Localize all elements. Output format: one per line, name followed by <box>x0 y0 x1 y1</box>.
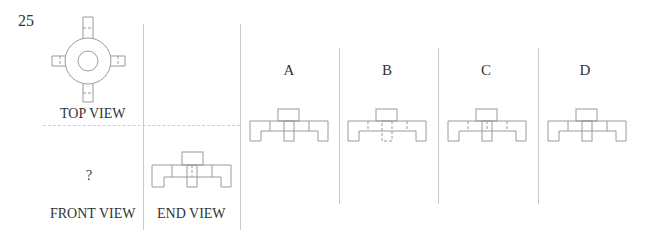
view-divider-1 <box>143 24 144 230</box>
front-view-label: FRONT VIEW <box>50 206 135 222</box>
option-d-drawing[interactable] <box>546 107 630 143</box>
option-divider-bc <box>438 48 439 204</box>
front-view-question-mark: ? <box>86 168 92 184</box>
view-separator-horizontal <box>43 125 240 126</box>
option-a-label[interactable]: A <box>269 62 309 79</box>
option-a-drawing[interactable] <box>248 107 332 143</box>
option-b-label[interactable]: B <box>367 62 407 79</box>
end-view-label: END VIEW <box>157 206 226 222</box>
question-number: 25 <box>18 12 34 30</box>
option-divider-ab <box>339 48 340 204</box>
option-d-label[interactable]: D <box>565 62 605 79</box>
option-c-label[interactable]: C <box>466 62 506 79</box>
top-view-drawing <box>48 14 128 104</box>
end-view-drawing <box>150 150 234 190</box>
option-b-drawing[interactable] <box>346 107 430 143</box>
view-divider-2 <box>240 24 241 230</box>
top-view-label: TOP VIEW <box>60 106 125 122</box>
option-c-drawing[interactable] <box>446 107 530 143</box>
option-divider-cd <box>538 48 539 204</box>
